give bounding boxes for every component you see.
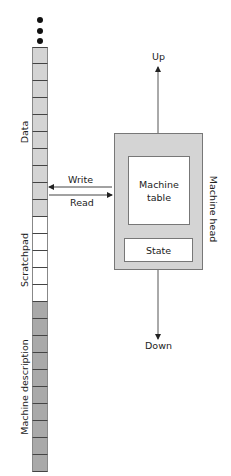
up-label: Up (152, 51, 165, 62)
arrows-layer (0, 0, 231, 476)
down-label: Down (145, 340, 172, 351)
read-label: Read (70, 197, 94, 208)
write-label: Write (68, 174, 93, 185)
